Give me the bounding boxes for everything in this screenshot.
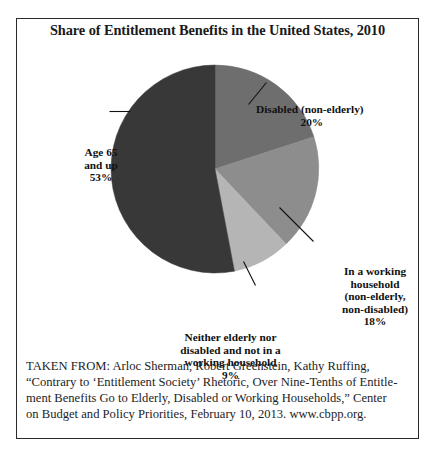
pie-label-age-65-line1: Age 65 bbox=[85, 146, 118, 158]
citation-line-1: TAKEN FROM: Arloc Sherman, Robert Greens… bbox=[26, 358, 410, 374]
pie-label-disabled-percent: 20% bbox=[256, 116, 364, 129]
pie-label-working-line3: (non-elderly, bbox=[344, 290, 405, 302]
citation-line-3: ment Benefits Go to Elderly, Disabled or… bbox=[26, 390, 410, 406]
pie-label-neither-line2: disabled and not in a bbox=[180, 344, 280, 356]
source-citation: TAKEN FROM: Arloc Sherman, Robert Greens… bbox=[26, 358, 410, 422]
pie-label-age-65: Age 65 and up 53% bbox=[55, 146, 147, 184]
pie-chart: Disabled (non-elderly) 20% Age 65 and up… bbox=[17, 45, 418, 345]
citation-line-4: on Budget and Policy Priorities, Februar… bbox=[26, 406, 410, 422]
pie-label-working-percent: 18% bbox=[364, 315, 387, 327]
pie-label-working-line4: non-disabled) bbox=[342, 303, 408, 315]
pie-label-disabled: Disabled (non-elderly) 20% bbox=[256, 103, 364, 128]
page-title: Share of Entitlement Benefits in the Uni… bbox=[18, 22, 417, 39]
pie-label-working-line1: In a working bbox=[344, 265, 406, 277]
pie-label-disabled-text: Disabled (non-elderly) bbox=[256, 103, 364, 115]
figure-page: Share of Entitlement Benefits in the Uni… bbox=[0, 0, 435, 457]
pie-label-age-65-percent: 53% bbox=[90, 171, 113, 183]
pie-label-working-household: In a working household (non-elderly, non… bbox=[314, 265, 435, 328]
pie-label-age-65-line2: and up bbox=[84, 159, 118, 171]
citation-line-2: “Contrary to ‘Entitlement Society’ Rheto… bbox=[26, 374, 410, 390]
pie-label-neither-line1: Neither elderly nor bbox=[184, 331, 276, 343]
pie-label-working-line2: household bbox=[351, 278, 400, 290]
